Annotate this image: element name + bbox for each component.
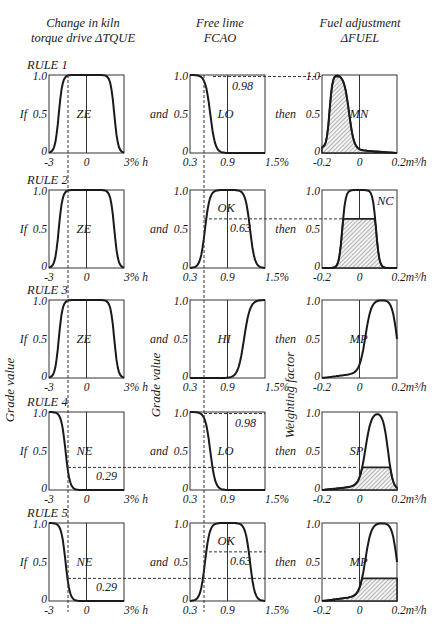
connector-label: and <box>150 107 169 121</box>
fuzzy-rule-diagram: RULE 1If1.00.50-303% hZEand1.00.500.30.9… <box>0 0 440 638</box>
x-tick: -3 <box>44 381 54 393</box>
y-tick: 1.0 <box>306 518 321 530</box>
connector-label: If <box>19 107 29 121</box>
mf-plot: and1.00.500.30.91.5%LO <box>150 70 289 168</box>
rule-row-2: RULE 2If1.00.50-303% hZEand1.00.500.30.9… <box>19 173 427 283</box>
fuzzy-set-label: NE <box>76 555 93 569</box>
connector-label: then <box>275 555 296 569</box>
y-tick: 1.0 <box>306 70 321 82</box>
y-tick: 0.5 <box>174 223 189 235</box>
y-tick: 0.5 <box>33 108 48 120</box>
x-tick: 0 <box>84 271 90 283</box>
rule-row-4: RULE 4If1.00.50-303% hNEand1.00.500.30.9… <box>19 395 427 505</box>
degree-annotation: 0.98 <box>235 416 256 430</box>
y-tick: 0.5 <box>306 333 321 345</box>
x-tick: -3 <box>44 604 54 616</box>
x-tick: 0.3 <box>183 156 198 168</box>
x-tick: 3% h <box>123 381 148 393</box>
y-tick: 0.5 <box>174 108 189 120</box>
side-axis-label: Grade value <box>2 357 17 422</box>
y-tick: 0.5 <box>174 445 189 457</box>
connector-label: If <box>19 222 29 236</box>
y-tick: 0.5 <box>174 333 189 345</box>
fuzzy-set-label: MP <box>349 555 368 569</box>
y-tick: 1.0 <box>306 185 321 197</box>
mf-plot: then1.00.50-0.200.2m³/hMP <box>275 295 426 393</box>
degree-annotation: 0.29 <box>96 580 117 594</box>
x-tick: -0.2 <box>313 271 331 283</box>
connector-label: If <box>19 332 29 346</box>
x-tick: 3% h <box>123 156 148 168</box>
connector-label: then <box>275 444 296 458</box>
x-tick: 3% h <box>123 271 148 283</box>
y-tick: 1.0 <box>174 185 189 197</box>
x-tick: 0.2m³/h <box>391 156 426 168</box>
connector-label: If <box>19 555 29 569</box>
rule-row-1: RULE 1If1.00.50-303% hZEand1.00.500.30.9… <box>19 58 427 168</box>
connector-label: and <box>150 555 169 569</box>
connector-label: then <box>275 332 296 346</box>
y-tick: 1.0 <box>306 295 321 307</box>
x-tick: 0 <box>357 604 363 616</box>
rule-row-3: RULE 3If1.00.50-303% hZEand1.00.500.30.9… <box>19 283 427 393</box>
degree-annotation: 0.98 <box>232 79 253 93</box>
x-tick: 0.2m³/h <box>391 271 426 283</box>
mf-plot: then1.00.50-0.200.2m³/hNC <box>275 185 426 283</box>
x-tick: -0.2 <box>313 381 331 393</box>
rule-row-5: RULE 5If1.00.50-303% hNEand1.00.500.30.9… <box>19 506 427 616</box>
fuzzy-set-label: MN <box>349 107 369 121</box>
x-tick: 0.2m³/h <box>391 381 426 393</box>
y-tick: 0.5 <box>33 333 48 345</box>
x-tick: 3% h <box>123 493 148 505</box>
x-tick: 0 <box>357 156 363 168</box>
fuzzy-set-label: OK <box>218 534 236 548</box>
x-tick: 0.3 <box>183 381 198 393</box>
y-tick: 0.5 <box>306 556 321 568</box>
connector-label: and <box>150 332 169 346</box>
connector-label: and <box>150 444 169 458</box>
x-tick: 0 <box>357 381 363 393</box>
x-tick: 1.5% <box>265 604 289 616</box>
fuzzy-set-label: LO <box>217 444 234 458</box>
x-tick: 0 <box>84 156 90 168</box>
mf-plot: then1.00.50-0.200.2m³/hMN <box>275 70 426 168</box>
mf-plot: If1.00.50-303% hZE <box>19 185 149 283</box>
y-tick: 0.5 <box>306 108 321 120</box>
side-axis-label: Grade value <box>148 352 163 417</box>
x-tick: 0.9 <box>220 271 235 283</box>
fuzzy-set-label: ZE <box>77 107 92 121</box>
y-tick: 1.0 <box>33 518 48 530</box>
x-tick: 3% h <box>123 604 148 616</box>
y-tick: 1.0 <box>174 407 189 419</box>
x-tick: 0.3 <box>183 604 198 616</box>
degree-annotation: 0.63 <box>230 221 251 235</box>
x-tick: 0.9 <box>220 381 235 393</box>
fuzzy-set-label: MP <box>349 332 368 346</box>
y-tick: 0.5 <box>174 556 189 568</box>
x-tick: 0 <box>84 604 90 616</box>
x-tick: 0.9 <box>220 493 235 505</box>
mf-plot: then1.00.50-0.200.2m³/hMP <box>275 518 426 616</box>
connector-label: then <box>275 222 296 236</box>
x-tick: 1.5% <box>265 156 289 168</box>
x-tick: -3 <box>44 156 54 168</box>
x-tick: 0 <box>84 493 90 505</box>
y-tick: 1.0 <box>174 518 189 530</box>
y-tick: 1.0 <box>33 407 48 419</box>
y-tick: 1.0 <box>33 70 48 82</box>
y-tick: 0.5 <box>33 223 48 235</box>
fuzzy-set-label: NC <box>376 194 394 208</box>
fuzzy-set-label: OK <box>218 201 236 215</box>
x-tick: 0.9 <box>220 604 235 616</box>
x-tick: -3 <box>44 493 54 505</box>
mf-plot: If1.00.50-303% hZE <box>19 295 149 393</box>
x-tick: 0.3 <box>183 271 198 283</box>
x-tick: -0.2 <box>313 493 331 505</box>
mf-plot: If1.00.50-303% hNE <box>19 407 149 505</box>
y-tick: 1.0 <box>174 295 189 307</box>
connector-label: and <box>150 222 169 236</box>
y-tick: 1.0 <box>33 295 48 307</box>
fuzzy-set-label: NE <box>76 444 93 458</box>
side-axis-label: Weighting factor <box>282 351 297 438</box>
mf-plot: If1.00.50-303% hZE <box>19 70 149 168</box>
